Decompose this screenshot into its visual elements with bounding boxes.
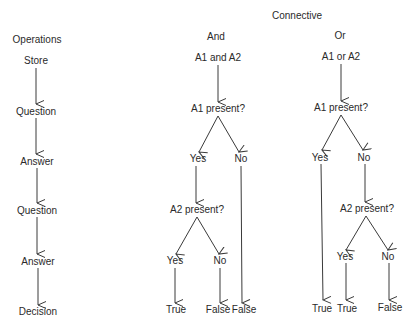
or-decision-true-a2: True <box>337 303 357 315</box>
operations-heading: Operations <box>13 34 62 46</box>
diagram-title: Connective <box>272 10 322 22</box>
operation-answer-2: Answer <box>21 256 54 268</box>
or-answer1-no: No <box>358 152 371 164</box>
operation-question-1: Question <box>16 106 56 118</box>
and-answer2-no: No <box>214 255 227 267</box>
and-answer1-yes: Yes <box>190 153 206 165</box>
or-store-node: A1 or A2 <box>322 51 360 63</box>
or-answer2-no: No <box>382 251 395 263</box>
connective-flow-diagram: Connective Operations Store Question Ans… <box>0 0 416 330</box>
operation-answer-1: Answer <box>20 156 53 168</box>
operation-question-2: Question <box>17 205 57 217</box>
or-heading: Or <box>334 30 345 42</box>
or-answer2-yes: Yes <box>337 251 353 263</box>
operation-decision: Decision <box>19 306 57 318</box>
and-question1-node: A1 present? <box>191 103 245 115</box>
operation-store: Store <box>24 55 48 67</box>
and-decision-false-a2: False <box>206 304 230 316</box>
or-question1-node: A1 present? <box>314 102 368 114</box>
or-decision-false: False <box>378 302 402 314</box>
or-question2-node: A2 present? <box>340 203 394 215</box>
and-answer1-no: No <box>235 153 248 165</box>
or-answer1-yes: Yes <box>312 152 328 164</box>
or-arrows <box>321 64 389 300</box>
and-heading: And <box>207 31 225 43</box>
and-question2-node: A2 present? <box>170 204 224 216</box>
and-decision-false-a1: False <box>232 304 256 316</box>
and-store-node: A1 and A2 <box>195 52 241 64</box>
and-decision-true: True <box>166 304 186 316</box>
arrow-layer <box>0 0 416 330</box>
and-answer2-yes: Yes <box>167 255 183 267</box>
operations-arrows <box>36 68 38 305</box>
and-arrows <box>175 65 242 303</box>
or-decision-true-a1: True <box>312 303 332 315</box>
